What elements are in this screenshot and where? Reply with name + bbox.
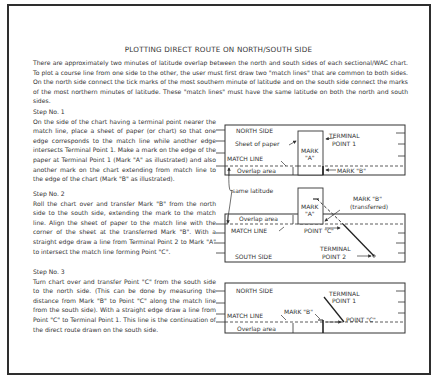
pointer-arrow [315,314,320,319]
terminal-point-1-label: TERMINAL [328,290,360,297]
mark-a-label: MARK [301,203,319,210]
south-side-label: SOUTH SIDE [235,253,272,260]
mark-a-label-2: "A" [305,210,315,217]
pointer-arrow [325,210,340,221]
mark-b-transferred-label: MARK "B" [353,195,382,202]
pointer-arrow [281,315,286,320]
diagram-1: NORTH SIDE Sheet of paper MARK "A" TERMI… [216,125,405,175]
terminal-point-2-label: TERMINAL [319,245,351,252]
diagram-3: NORTH SIDE TERMINAL POINT 1 MATCH LINE M… [216,283,405,333]
match-line-label: MATCH LINE [227,312,263,319]
mark-a-label: MARK [301,147,319,154]
terminal-point-1-label-2: POINT 1 [332,297,356,304]
overlap-area-label: Overlap area [237,325,276,333]
mark-b-label: MARK "B" [337,167,366,174]
north-side-label: NORTH SIDE [236,127,273,134]
terminal-point-1-label: TERMINAL [328,132,360,139]
match-line-label: MATCH LINE [227,155,263,162]
mark-a-label-2: "A" [305,154,315,161]
diagram-2: MARK "A" MARK "B" (transferred) Overlap … [214,188,405,262]
sheet-of-paper-label: Sheet of paper [235,140,280,148]
overlap-area-label: Overlap area [237,167,276,175]
pointer-arrow [279,227,284,231]
north-side-label: NORTH SIDE [236,287,273,294]
diagrams: NORTH SIDE Sheet of paper MARK "A" TERMI… [0,0,437,384]
same-latitude-label: same latitude [232,187,274,194]
mark-b-label: MARK "B" [284,308,313,315]
point-c-label: POINT "C" [346,316,376,323]
terminal-point-2-label-2: POINT 2 [322,253,346,260]
overlap-area-label: Overlap area [239,215,278,223]
pointer-arrow [281,161,286,166]
terminal-point-1-label-2: POINT 1 [332,140,356,147]
match-line-label: MATCH LINE [231,227,267,234]
point-c-label: POINT "C" [304,227,334,234]
pointer-arrow [289,141,296,145]
mark-b-transferred-label-2: (transferred) [350,203,388,210]
